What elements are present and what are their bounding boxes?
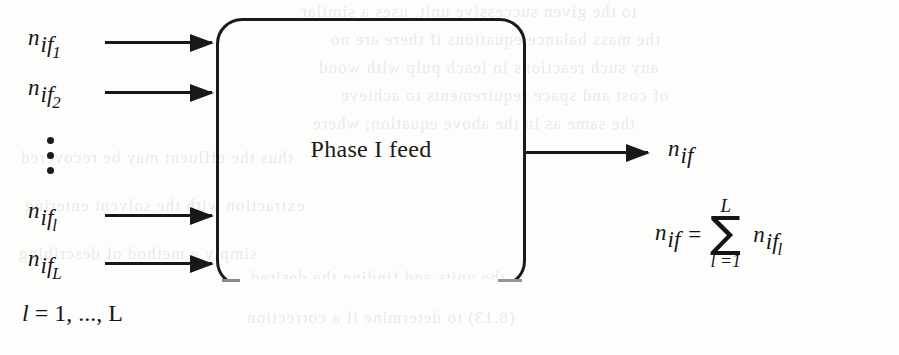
input-arrow-1	[105, 41, 212, 44]
output-base: n	[668, 136, 680, 161]
vertical-ellipsis-icon	[47, 137, 54, 182]
output-arrow	[526, 151, 648, 154]
index-range-note: l=1, ..., L	[22, 300, 123, 327]
equation-lhs-sub: if	[668, 227, 681, 252]
input-label-2: nif2	[28, 76, 61, 99]
process-box-bottom-edge-remnant-right	[498, 279, 522, 282]
equation-term-sub: if	[766, 229, 779, 254]
input-1-subsub: 1	[52, 43, 61, 62]
equation-lhs-base: n	[655, 220, 667, 245]
process-box-label: Phase I feed	[216, 136, 526, 163]
input-label-3: nifl	[28, 199, 57, 222]
input-3-subsub: l	[52, 216, 57, 235]
input-4-base: n	[28, 246, 40, 271]
input-label-4: nifL	[28, 247, 62, 270]
input-4-subsub: L	[52, 264, 61, 283]
index-range-equals: =	[35, 300, 49, 326]
equation-summand: nifl	[753, 222, 782, 248]
input-1-base: n	[28, 25, 40, 50]
bleed-text-line: (8.13) to determine if a correction	[246, 308, 515, 328]
index-range-prefix: l	[22, 300, 29, 326]
equation-term-base: n	[753, 222, 765, 247]
input-arrow-2	[105, 91, 212, 94]
input-arrow-3	[105, 214, 212, 217]
index-range-values: 1, ..., L	[54, 300, 123, 326]
equation-equals-sign: =	[688, 222, 701, 248]
sigma-icon: ∑	[710, 215, 741, 250]
input-3-base: n	[28, 198, 40, 223]
equation-lhs: nif	[655, 220, 679, 246]
input-label-1: nif1	[28, 26, 61, 49]
output-sub: if	[681, 143, 694, 168]
sigma-block: L ∑ l =1	[710, 196, 741, 270]
equation-term-subsub: l	[778, 240, 783, 259]
summation-equation: nif = L ∑ l =1 nifl	[655, 196, 782, 270]
input-2-base: n	[28, 75, 40, 100]
input-arrow-4	[105, 262, 212, 265]
figure-canvas: to the given successive unit, uses a sim…	[0, 0, 899, 355]
process-box-bottom-edge-remnant-left	[222, 279, 240, 282]
input-2-subsub: 2	[52, 93, 61, 112]
output-label: nif	[668, 137, 692, 160]
